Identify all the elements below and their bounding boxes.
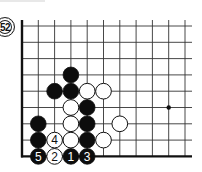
black-stone [79, 132, 95, 148]
move-number: 2 [51, 150, 58, 164]
black-stone [79, 100, 95, 116]
move-number: 4 [51, 133, 58, 147]
go-board: 45213 [0, 0, 202, 172]
move-number: 3 [84, 150, 91, 164]
black-stone [30, 132, 46, 148]
black-stone [47, 83, 63, 99]
star-point [167, 105, 171, 109]
white-stone [79, 83, 95, 99]
white-stone [63, 132, 79, 148]
white-stone [63, 116, 79, 132]
black-stone [63, 67, 79, 83]
black-stone [63, 83, 79, 99]
move-number: 1 [68, 150, 75, 164]
white-stone [63, 100, 79, 116]
black-stone [79, 116, 95, 132]
white-stone [112, 116, 128, 132]
white-stone [96, 83, 112, 99]
move-number: 5 [35, 150, 42, 164]
black-stone [30, 116, 46, 132]
white-stone [96, 132, 112, 148]
